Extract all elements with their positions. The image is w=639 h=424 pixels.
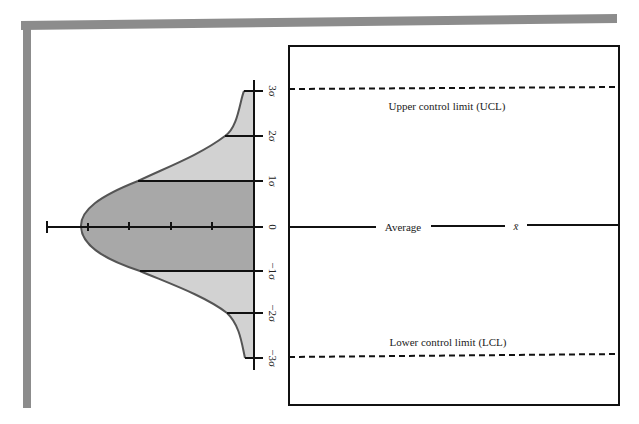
- lcl-label: Lower control limit (LCL): [390, 336, 507, 349]
- sigma-label-neg2: −2σ: [267, 304, 279, 322]
- sigma-label-neg1: −1σ: [267, 262, 279, 280]
- average-line: [289, 225, 619, 227]
- sigma-label-2: 2σ: [267, 130, 279, 142]
- sigma-label-0: 0: [267, 224, 279, 230]
- ucl-label: Upper control limit (UCL): [388, 100, 505, 113]
- frame-left-bar: [23, 26, 31, 408]
- sigma-label-neg3: −3σ: [267, 349, 279, 367]
- frame-top-bar: [21, 14, 617, 30]
- x-bar-symbol: x̄: [513, 220, 519, 232]
- ucl-line: [289, 87, 619, 89]
- lcl-line: [289, 354, 619, 357]
- sigma-label-3: 3σ: [267, 85, 279, 97]
- control-chart-diagram: 3σ 2σ 1σ 0 −1σ −2σ −3σ Upper control lim…: [0, 0, 639, 424]
- sigma-label-1: 1σ: [267, 175, 279, 187]
- average-label: Average: [385, 221, 422, 233]
